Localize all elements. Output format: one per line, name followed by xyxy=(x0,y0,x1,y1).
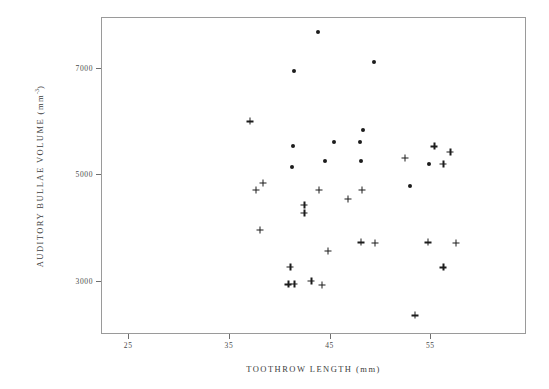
plot-area-frame xyxy=(101,17,526,334)
data-point-circle xyxy=(359,159,363,163)
data-point-plus xyxy=(324,247,331,254)
y-tick-label: 7000 xyxy=(61,63,93,72)
data-point-circle xyxy=(316,30,320,34)
y-tick-mark xyxy=(96,174,101,175)
data-point-circle xyxy=(358,140,362,144)
scatter-plot-figure: 25354555 300050007000 TOOTHROW LENGTH (m… xyxy=(0,0,549,389)
data-point-plus xyxy=(440,160,447,167)
x-tick-label: 35 xyxy=(225,341,234,350)
data-point-plus xyxy=(318,281,325,288)
data-point-plus xyxy=(358,186,365,193)
data-point-circle xyxy=(291,144,295,148)
data-point-circle xyxy=(408,184,412,188)
y-axis-title-text: AUDITORY BULLAE VOLUME (mm xyxy=(35,93,45,266)
data-point-plus xyxy=(253,186,260,193)
data-point-plus xyxy=(308,278,315,285)
data-point-plus xyxy=(247,118,254,125)
y-tick-mark xyxy=(96,68,101,69)
x-tick-mark xyxy=(330,334,331,339)
x-tick-mark xyxy=(229,334,230,339)
data-point-circle xyxy=(292,69,296,73)
data-point-plus xyxy=(412,312,419,319)
data-point-plus xyxy=(357,239,364,246)
data-point-circle xyxy=(361,128,365,132)
data-point-plus xyxy=(287,263,294,270)
data-point-circle xyxy=(427,162,431,166)
data-point-circle xyxy=(290,165,294,169)
data-point-plus xyxy=(371,239,378,246)
y-axis-title-suffix: ) xyxy=(35,84,45,88)
x-tick-label: 55 xyxy=(426,341,435,350)
data-point-plus xyxy=(301,201,308,208)
data-point-plus xyxy=(257,227,264,234)
x-tick-label: 45 xyxy=(325,341,334,350)
data-point-plus xyxy=(440,264,447,271)
data-point-plus xyxy=(301,209,308,216)
x-axis-title-text: TOOTHROW LENGTH (mm) xyxy=(246,364,380,374)
x-tick-label: 25 xyxy=(124,341,133,350)
data-point-plus xyxy=(260,180,267,187)
data-point-plus xyxy=(425,239,432,246)
data-point-plus xyxy=(344,196,351,203)
data-point-circle xyxy=(372,60,376,64)
data-point-plus xyxy=(291,280,298,287)
y-tick-mark xyxy=(96,281,101,282)
y-axis-title: AUDITORY BULLAE VOLUME (mm-3) xyxy=(34,84,45,267)
data-point-circle xyxy=(332,140,336,144)
data-point-plus xyxy=(315,186,322,193)
x-tick-mark xyxy=(128,334,129,339)
y-tick-label: 3000 xyxy=(61,276,93,285)
data-point-circle xyxy=(323,159,327,163)
data-point-plus xyxy=(402,154,409,161)
data-point-plus xyxy=(452,239,459,246)
data-point-plus xyxy=(447,148,454,155)
x-axis-title: TOOTHROW LENGTH (mm) xyxy=(246,364,380,374)
data-point-plus xyxy=(431,143,438,150)
y-tick-label: 5000 xyxy=(61,170,93,179)
x-tick-mark xyxy=(430,334,431,339)
